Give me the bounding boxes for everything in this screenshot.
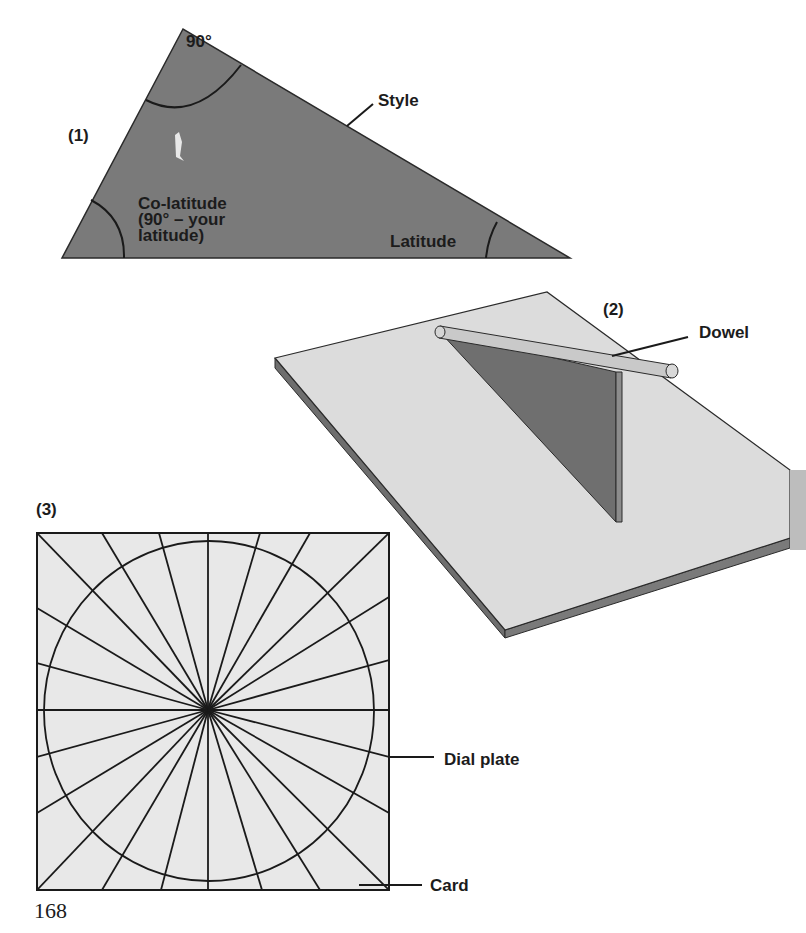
card-label: Card (430, 877, 469, 894)
gnomon-edge (616, 372, 622, 522)
page-number: 168 (34, 898, 67, 924)
figure-3-label: (3) (36, 501, 57, 518)
dowel-front-end (666, 364, 678, 378)
dial-plate-label: Dial plate (444, 751, 520, 768)
latitude-label: Latitude (390, 233, 456, 250)
dowel-leader-line (612, 337, 688, 356)
figure-3-dial-plate (37, 533, 434, 890)
figure-1-label: (1) (68, 127, 89, 144)
co-latitude-label: Co-latitude (90° – your latitude) (138, 196, 227, 244)
style-label: Style (378, 92, 419, 109)
figure-2-label: (2) (603, 301, 624, 318)
right-angle-label: 90° (186, 33, 212, 50)
style-leader-line (347, 104, 373, 126)
sundial-diagram (0, 0, 806, 933)
dowel-back-end (435, 326, 445, 338)
page-shadow (790, 470, 806, 550)
dowel-label: Dowel (699, 324, 749, 341)
